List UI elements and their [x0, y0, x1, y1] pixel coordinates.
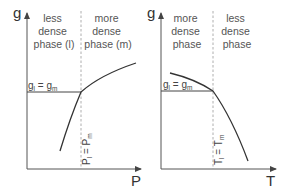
temperature-panel: g T more dense phase less dense phase gl…	[147, 4, 276, 189]
pressure-transition-label: Pl = Pm	[81, 133, 93, 165]
temperature-left-region-label: more dense phase	[171, 12, 203, 50]
temperature-equality-label: gl = gm	[163, 79, 192, 91]
pressure-panel: g P less dense phase (l) more dense phas…	[13, 4, 141, 189]
pressure-equality-label: gl = gm	[28, 80, 57, 92]
temperature-x-axis-label: T	[266, 172, 275, 189]
pressure-gibbs-curve	[60, 63, 136, 151]
temperature-transition-label: Tl = Tm	[213, 135, 225, 165]
phase-transition-diagram: g P less dense phase (l) more dense phas…	[0, 0, 290, 191]
pressure-right-region-label: more dense phase (m)	[84, 12, 131, 50]
pressure-left-region-label: less dense phase (l)	[34, 12, 75, 50]
pressure-y-axis-label: g	[13, 4, 21, 21]
temperature-y-axis-label: g	[147, 4, 155, 21]
pressure-x-axis-label: P	[131, 172, 141, 189]
temperature-right-region-label: less dense phase	[221, 12, 253, 50]
